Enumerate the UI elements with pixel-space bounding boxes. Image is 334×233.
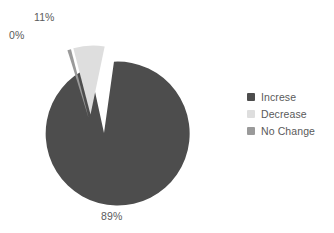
legend-item-increse[interactable]: Increse xyxy=(247,91,315,103)
chart-legend: Increse Decrease No Change xyxy=(247,91,315,137)
pie-svg xyxy=(0,0,240,233)
legend-swatch-decrease xyxy=(247,110,255,118)
legend-swatch-increse xyxy=(247,93,255,101)
legend-swatch-no-change xyxy=(247,127,255,135)
pie-label-decrease: 11% xyxy=(34,12,55,23)
legend-label-increse: Increse xyxy=(261,92,296,103)
pie-chart-figure: 11% 0% 89% Increse Decrease No Change xyxy=(0,0,334,233)
legend-item-decrease[interactable]: Decrease xyxy=(247,108,315,120)
legend-label-decrease: Decrease xyxy=(261,109,307,120)
legend-label-no-change: No Change xyxy=(261,126,315,137)
pie-plot-area: 11% 0% 89% xyxy=(0,0,240,233)
pie-slice-increse[interactable] xyxy=(46,62,190,206)
pie-label-no-change: 0% xyxy=(9,30,24,41)
pie-label-increse: 89% xyxy=(101,211,122,222)
legend-item-no-change[interactable]: No Change xyxy=(247,125,315,137)
